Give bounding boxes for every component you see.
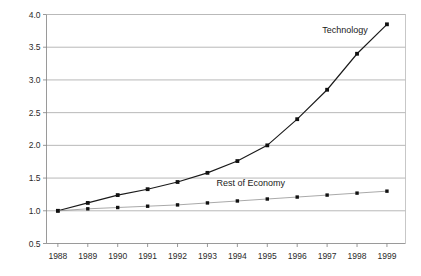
data-point-marker [86, 207, 89, 210]
series-line-rest-of-economy [58, 191, 387, 211]
y-tick-label: 2.0 [29, 140, 41, 150]
x-tick-label: 1998 [348, 251, 367, 261]
data-point-marker [325, 88, 329, 92]
data-point-marker [325, 193, 328, 196]
y-tick-label: 3.0 [29, 75, 41, 85]
x-tick-label: 1992 [168, 251, 187, 261]
x-tick-label: 1997 [318, 251, 337, 261]
y-tick-label: 1.5 [29, 173, 41, 183]
data-point-marker [235, 159, 239, 163]
line-chart: 0.51.01.52.02.53.03.54.01988198919901991… [0, 0, 421, 276]
data-point-marker [146, 205, 149, 208]
x-tick-label: 1989 [78, 251, 97, 261]
data-point-marker [385, 189, 388, 192]
x-tick-label: 1999 [377, 251, 396, 261]
data-point-marker [295, 117, 299, 121]
y-tick-label: 1.0 [29, 206, 41, 216]
x-tick-label: 1993 [198, 251, 217, 261]
data-point-marker [86, 201, 90, 205]
data-point-marker [206, 201, 209, 204]
data-point-marker [355, 52, 359, 56]
data-point-marker [265, 143, 269, 147]
data-point-marker [385, 22, 389, 26]
x-tick-label: 1991 [138, 251, 157, 261]
y-tick-label: 3.5 [29, 42, 41, 52]
data-point-marker [176, 180, 180, 184]
data-point-marker [206, 171, 210, 175]
data-point-marker [56, 209, 59, 212]
data-point-marker [296, 195, 299, 198]
data-point-marker [236, 199, 239, 202]
data-point-marker [355, 191, 358, 194]
chart-canvas: 0.51.01.52.02.53.03.54.01988198919901991… [0, 0, 421, 276]
data-point-marker [266, 197, 269, 200]
data-point-marker [176, 203, 179, 206]
data-point-marker [116, 193, 120, 197]
series-label-technology: Technology [322, 25, 368, 35]
series-label-rest-of-economy: Rest of Economy [217, 178, 286, 188]
x-tick-label: 1995 [258, 251, 277, 261]
data-point-marker [116, 206, 119, 209]
data-point-marker [146, 187, 150, 191]
x-tick-label: 1990 [108, 251, 127, 261]
y-tick-label: 0.5 [29, 239, 41, 249]
y-tick-label: 4.0 [29, 10, 41, 20]
x-tick-label: 1994 [228, 251, 247, 261]
x-tick-label: 1988 [48, 251, 67, 261]
x-tick-label: 1996 [288, 251, 307, 261]
y-tick-label: 2.5 [29, 108, 41, 118]
